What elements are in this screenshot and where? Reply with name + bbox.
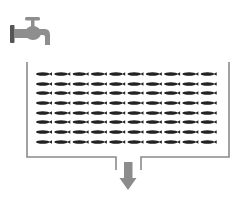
diagram-stage bbox=[0, 0, 247, 202]
fish-icon bbox=[128, 91, 144, 94]
fish-icon bbox=[109, 140, 125, 143]
fish-icon bbox=[182, 91, 198, 94]
fish-icon bbox=[91, 101, 107, 104]
fish-icon bbox=[164, 72, 180, 75]
fish-icon bbox=[201, 91, 217, 94]
fish-icon bbox=[54, 72, 70, 75]
fish-icon bbox=[54, 91, 70, 94]
fish-icon bbox=[91, 82, 107, 85]
fish-icon bbox=[73, 140, 89, 143]
fish-icon bbox=[36, 101, 52, 104]
fish-icon bbox=[109, 91, 125, 94]
fish-icon bbox=[73, 120, 89, 123]
fish-icon bbox=[128, 140, 144, 143]
fish-icon bbox=[73, 82, 89, 85]
fish-icon bbox=[109, 120, 125, 123]
fish-icon bbox=[91, 72, 107, 75]
tank bbox=[27, 62, 229, 170]
fish-icon bbox=[36, 120, 52, 123]
fish-icon bbox=[109, 82, 125, 85]
fish-icon bbox=[164, 120, 180, 123]
fish-icon bbox=[91, 140, 107, 143]
faucet-icon bbox=[10, 17, 50, 45]
fish-icon bbox=[182, 82, 198, 85]
fish-icon bbox=[54, 82, 70, 85]
fish-icon bbox=[36, 91, 52, 94]
fish-icon bbox=[91, 130, 107, 133]
fish-icon bbox=[73, 91, 89, 94]
tank-outline bbox=[27, 62, 229, 170]
fish-icon bbox=[164, 111, 180, 114]
fish-icon bbox=[182, 140, 198, 143]
fish-icon bbox=[146, 120, 162, 123]
fish-icon bbox=[36, 72, 52, 75]
fish-icon bbox=[146, 82, 162, 85]
fish-icon bbox=[128, 82, 144, 85]
fish-icon bbox=[164, 101, 180, 104]
fish-icon bbox=[146, 130, 162, 133]
fish-icon bbox=[146, 91, 162, 94]
fish-icon bbox=[54, 130, 70, 133]
fish-icon bbox=[164, 130, 180, 133]
fish-icon bbox=[201, 72, 217, 75]
fish-icon bbox=[201, 82, 217, 85]
fish-icon bbox=[128, 111, 144, 114]
fish-icon bbox=[73, 111, 89, 114]
fish-icon bbox=[109, 111, 125, 114]
fish-icon bbox=[54, 120, 70, 123]
fish-icon bbox=[128, 101, 144, 104]
fish-icon bbox=[146, 111, 162, 114]
fish-icon bbox=[128, 120, 144, 123]
fish-icon bbox=[91, 91, 107, 94]
fish-icon bbox=[36, 140, 52, 143]
fish-icon bbox=[164, 91, 180, 94]
fish-icon bbox=[201, 111, 217, 114]
fish-icon bbox=[109, 101, 125, 104]
fish-icon bbox=[201, 101, 217, 104]
fish-icon bbox=[182, 120, 198, 123]
fish-icon bbox=[73, 130, 89, 133]
fish-icon bbox=[91, 111, 107, 114]
fish-icon bbox=[36, 130, 52, 133]
fish-icon bbox=[109, 72, 125, 75]
fish-icon bbox=[128, 72, 144, 75]
fish-icon bbox=[146, 101, 162, 104]
fish-icon bbox=[54, 140, 70, 143]
fish-icon bbox=[182, 130, 198, 133]
fish-icon bbox=[182, 72, 198, 75]
fish-icon bbox=[164, 82, 180, 85]
fish-icon bbox=[201, 140, 217, 143]
fish-icon bbox=[146, 140, 162, 143]
fish-icon bbox=[201, 120, 217, 123]
fish-icon bbox=[73, 101, 89, 104]
fish-icon bbox=[91, 120, 107, 123]
fish-icon bbox=[164, 140, 180, 143]
fish-icon bbox=[182, 111, 198, 114]
fish-icon bbox=[54, 111, 70, 114]
fish-grid bbox=[36, 72, 217, 143]
arrow-down-icon bbox=[120, 162, 137, 190]
fish-icon bbox=[73, 72, 89, 75]
fish-icon bbox=[201, 130, 217, 133]
fish-icon bbox=[146, 72, 162, 75]
fish-icon bbox=[36, 111, 52, 114]
fish-icon bbox=[109, 130, 125, 133]
fish-icon bbox=[128, 130, 144, 133]
fish-icon bbox=[54, 101, 70, 104]
fish-icon bbox=[36, 82, 52, 85]
fish-icon bbox=[182, 101, 198, 104]
